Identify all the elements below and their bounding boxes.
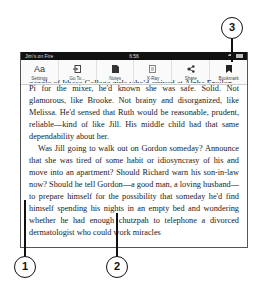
share-icon — [187, 64, 195, 75]
status-bar: Jim's on Fire 6:56 — [21, 52, 247, 60]
book-title: Jim's on Fire — [25, 52, 53, 60]
callout-1: 1 — [14, 256, 36, 278]
callout-3: 3 — [221, 17, 243, 39]
kindle-reader-screen: Jim's on Fire 6:56 Aa Settings Go To... … — [20, 52, 248, 248]
paragraph: Was Jill going to walk out on Gordon som… — [29, 143, 239, 239]
notes-icon — [112, 64, 119, 75]
font-settings-icon: Aa — [34, 64, 45, 75]
callout-1-leader — [24, 200, 26, 258]
xray-icon — [149, 64, 156, 75]
callout-2-leader — [116, 213, 118, 258]
book-content[interactable]: gaggle of Ithaca College girls who'd arr… — [29, 85, 239, 239]
callout-2: 2 — [106, 256, 128, 278]
goto-icon — [73, 64, 81, 75]
bookmark-icon — [226, 64, 232, 75]
paragraph: Pi for the mixer, he'd known she was saf… — [29, 83, 239, 143]
callout-3-leader — [231, 36, 233, 62]
battery-icon — [236, 54, 243, 58]
clock: 6:56 — [129, 52, 139, 60]
